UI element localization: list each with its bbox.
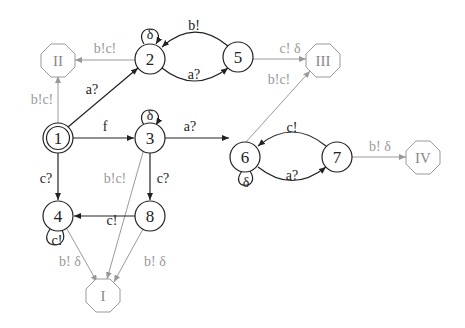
state-diagram: II III IV I 1 2 3 4 5 6 7 [0, 0, 465, 328]
terminal-IV-label: IV [415, 150, 431, 166]
label-7-IV: b! δ [369, 139, 391, 154]
edge-8-I [114, 229, 143, 282]
label-4-I: b! δ [59, 254, 81, 269]
label-6-7: a? [286, 168, 298, 183]
state-8-label: 8 [146, 207, 155, 226]
label-2-II: b!c! [94, 41, 117, 56]
label-loop-3: δ [147, 108, 154, 123]
edge-5-2 [162, 32, 228, 47]
state-3: 3 [135, 123, 165, 153]
label-5-III: c! δ [280, 41, 301, 56]
terminal-I: I [86, 279, 120, 312]
dark-edges [47, 29, 326, 245]
state-7: 7 [322, 142, 352, 172]
label-5-2: b! [188, 18, 200, 33]
state-3-label: 3 [146, 129, 155, 148]
state-4: 4 [43, 201, 73, 231]
label-8-I: b! δ [144, 254, 166, 269]
state-4-label: 4 [54, 207, 63, 226]
label-3-8: c? [157, 171, 169, 186]
label-loop-2: δ [147, 27, 154, 42]
label-1-II: b!c! [31, 92, 54, 107]
state-2: 2 [135, 44, 165, 74]
label-3-6: a? [184, 119, 196, 134]
label-loop-6: δ [243, 175, 250, 190]
label-7-6: c! [287, 120, 298, 135]
label-6-III: b!c! [268, 72, 291, 87]
state-7-label: 7 [333, 148, 342, 167]
terminal-II-label: II [53, 53, 63, 69]
label-8-4: c! [107, 213, 118, 228]
terminal-III: III [306, 44, 340, 77]
terminal-I-label: I [101, 288, 106, 304]
state-1-label: 1 [54, 129, 63, 148]
label-1-4: c? [40, 171, 52, 186]
state-8: 8 [135, 201, 165, 231]
label-3-I: b!c! [104, 171, 127, 186]
label-2-5: a? [188, 67, 200, 82]
state-1: 1 [43, 123, 73, 153]
terminal-III-label: III [316, 53, 331, 69]
state-6-label: 6 [241, 148, 250, 167]
label-1-2: a? [86, 82, 98, 97]
state-2-label: 2 [146, 50, 155, 69]
state-6: 6 [230, 142, 260, 172]
terminal-II: II [41, 44, 75, 77]
state-5: 5 [223, 42, 253, 72]
label-loop-4: c! [52, 233, 63, 248]
terminal-IV: IV [406, 141, 440, 174]
label-1-3: f [103, 119, 108, 134]
state-5-label: 5 [234, 48, 243, 67]
